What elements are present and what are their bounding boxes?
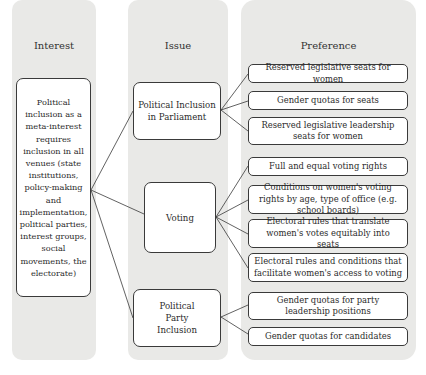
- preference-box: Reserved legislative seats for women: [248, 64, 408, 83]
- preference-box: Conditions on women's voting rights by a…: [248, 185, 408, 214]
- issue-political-inclusion-in-parliament: Political Inclusion in Parliament: [133, 82, 221, 140]
- preference-box: Gender quotas for candidates: [248, 327, 408, 346]
- issue-political-party-inclusion: Political Party Inclusion: [133, 289, 221, 347]
- interest-box: Political inclusion as a meta-interest r…: [16, 78, 91, 297]
- preference-box: Electoral rules that translate women's v…: [248, 219, 408, 248]
- preference-box: Gender quotas for party leadership posit…: [248, 292, 408, 320]
- issue-voting: Voting: [144, 182, 216, 253]
- preference-box: Reserved legislative leadership seats fo…: [248, 117, 408, 145]
- preference-box: Gender quotas for seats: [248, 91, 408, 110]
- preference-box: Full and equal voting rights: [248, 157, 408, 176]
- preference-box: Electoral rules and conditions that faci…: [248, 253, 408, 282]
- interest-box-text: Political inclusion as a meta-interest r…: [20, 96, 88, 279]
